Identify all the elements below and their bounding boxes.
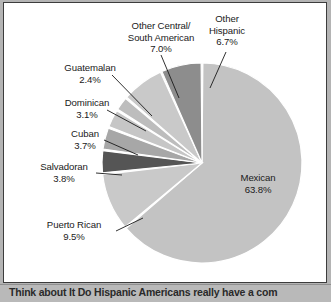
label-text: Dominican xyxy=(44,97,130,109)
label-text: Mexican xyxy=(216,172,300,184)
slice-label-puerto-rican: Puerto Rican 9.5% xyxy=(29,219,119,242)
label-value: 3.1% xyxy=(44,109,130,121)
label-text-line1: Other Central/ xyxy=(101,20,221,32)
label-text: Salvadoran xyxy=(24,161,104,173)
label-text: Cuban xyxy=(49,128,121,140)
label-value: 7.0% xyxy=(101,43,221,55)
slice-label-guatemalan: Guatemalan 2.4% xyxy=(47,62,133,85)
label-value: 63.8% xyxy=(216,184,300,196)
slice-label-other-central-south-american: Other Central/ South American 7.0% xyxy=(101,20,221,55)
pie-chart-card: Other Hispanic 6.7% Other Central/ South… xyxy=(3,2,327,283)
label-value: 2.4% xyxy=(47,74,133,86)
slice-label-cuban: Cuban 3.7% xyxy=(49,128,121,151)
caption-text: Think about It Do Hispanic Americans rea… xyxy=(9,286,277,298)
figure-root: Other Hispanic 6.7% Other Central/ South… xyxy=(0,0,331,302)
label-value: 9.5% xyxy=(29,231,119,243)
pie-slices-group xyxy=(102,63,302,263)
label-text-line2: South American xyxy=(101,32,221,44)
slice-label-dominican: Dominican 3.1% xyxy=(44,97,130,120)
slice-label-salvadoran: Salvadoran 3.8% xyxy=(24,161,104,184)
label-value: 3.8% xyxy=(24,173,104,185)
label-value: 3.7% xyxy=(49,140,121,152)
slice-label-mexican: Mexican 63.8% xyxy=(216,172,300,195)
label-text: Puerto Rican xyxy=(29,219,119,231)
label-text: Guatemalan xyxy=(47,62,133,74)
page-margin-right xyxy=(327,0,331,285)
caption-band: Think about It Do Hispanic Americans rea… xyxy=(0,285,331,302)
